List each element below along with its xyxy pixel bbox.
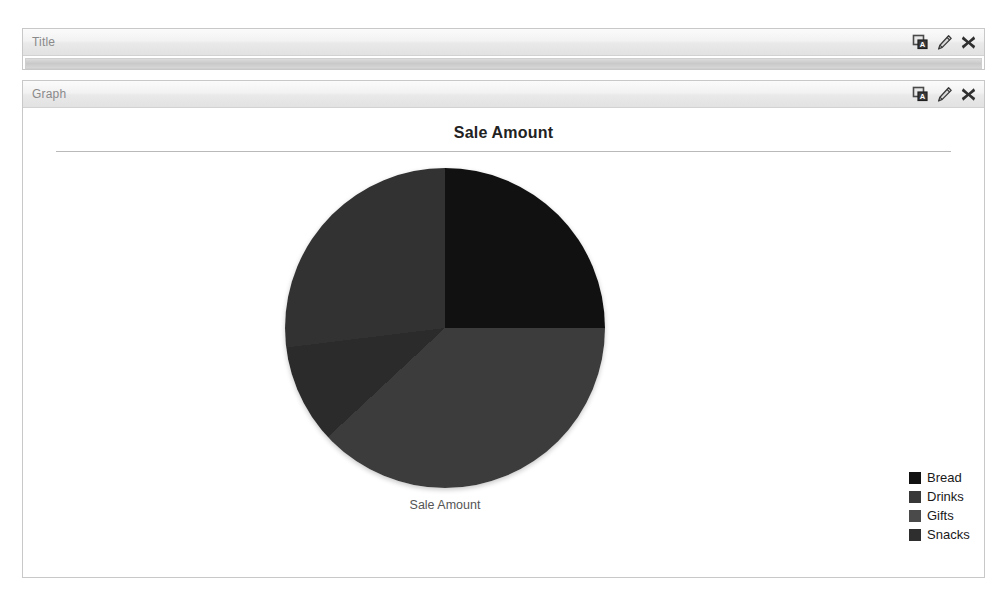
delete-icon[interactable] <box>960 34 977 51</box>
panel-title-label: Title <box>23 35 55 49</box>
chart-legend: BreadDrinksGiftsSnacks <box>909 468 970 544</box>
panel-title-tools: A <box>912 29 977 56</box>
rename-icon[interactable]: A <box>912 86 929 103</box>
pie-chart: Sale Amount <box>285 168 485 488</box>
legend-item[interactable]: Snacks <box>909 525 970 544</box>
panel-title-header[interactable]: Title A <box>23 29 984 56</box>
panel-title[interactable]: Title A <box>22 28 985 70</box>
graph-body: Sale Amount Sale Amount BreadDrinksGifts… <box>23 108 984 577</box>
rename-icon[interactable]: A <box>912 34 929 51</box>
legend-label: Bread <box>927 470 962 485</box>
legend-label: Gifts <box>927 508 954 523</box>
panel-graph[interactable]: Graph A <box>22 80 985 578</box>
legend-item[interactable]: Drinks <box>909 487 970 506</box>
svg-text:A: A <box>920 92 926 101</box>
legend-label: Snacks <box>927 527 970 542</box>
legend-swatch-icon <box>909 472 921 484</box>
delete-icon[interactable] <box>960 86 977 103</box>
panel-graph-header[interactable]: Graph A <box>23 81 984 108</box>
legend-swatch-icon <box>909 510 921 522</box>
legend-item[interactable]: Bread <box>909 468 970 487</box>
pie-caption: Sale Amount <box>225 498 665 512</box>
legend-label: Drinks <box>927 489 964 504</box>
edit-icon[interactable] <box>936 34 953 51</box>
plot-area: Sale Amount BreadDrinksGiftsSnacks <box>23 152 984 560</box>
chart-title: Sale Amount <box>23 108 984 142</box>
panel-graph-label: Graph <box>23 87 66 101</box>
legend-item[interactable]: Gifts <box>909 506 970 525</box>
legend-swatch-icon <box>909 491 921 503</box>
panel-graph-tools: A <box>912 81 977 108</box>
legend-swatch-icon <box>909 529 921 541</box>
panel-title-collapsed-body <box>25 58 982 69</box>
edit-icon[interactable] <box>936 86 953 103</box>
pie-disc[interactable] <box>285 168 605 488</box>
svg-text:A: A <box>920 40 926 49</box>
